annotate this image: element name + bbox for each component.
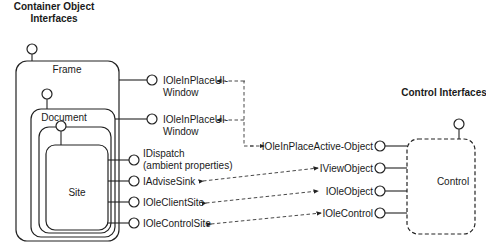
lollipop-icon [375, 141, 385, 151]
svg-text:IOleInPlaceActive-Object: IOleInPlaceActive-Object [262, 141, 373, 152]
svg-text:IViewObject: IViewObject [320, 163, 373, 174]
ole-object-interface: IOleObject [326, 186, 407, 197]
control-label: Control [437, 176, 469, 187]
inplace-active-object-interface: IOleInPlaceActive-Object [262, 141, 407, 152]
site-unknown-lollipop-icon [56, 121, 66, 131]
document-unknown-lollipop-icon [42, 89, 52, 99]
document-box: Document [31, 89, 115, 237]
svg-text:Window: Window [163, 87, 199, 98]
svg-text:IOleControlSite: IOleControlSite [143, 218, 211, 229]
svg-text:(ambient properties): (ambient properties) [143, 160, 232, 171]
advise-sink-interface: IAdviseSink [108, 176, 196, 187]
client-site-interface: IOleClientSite [108, 197, 205, 208]
container-header-line1: Container Object [14, 1, 95, 12]
view-object-interface: IViewObject [320, 163, 407, 174]
document-inner-box [39, 127, 111, 233]
dispatch-interface: IDispatch (ambient properties) [108, 148, 232, 171]
connector-controlsite-olecontrol [211, 213, 321, 224]
control-site-interface: IOleControlSite [108, 218, 211, 229]
svg-text:IOleObject: IOleObject [326, 186, 373, 197]
svg-text:IOleInPlaceUI-: IOleInPlaceUI- [163, 75, 228, 86]
control-unknown-lollipop-icon [454, 119, 464, 129]
svg-text:IOleClientSite: IOleClientSite [143, 197, 205, 208]
connector-clientsite-oleobject [206, 191, 318, 203]
control-box: Control [407, 119, 475, 234]
svg-text:Window: Window [163, 126, 199, 137]
ole-control-interface: IOleControl [322, 208, 407, 219]
site-box: Site [46, 121, 108, 230]
lollipop-icon [129, 176, 139, 186]
svg-text:IDispatch: IDispatch [143, 148, 185, 159]
connector-uiwindow-bracket [244, 81, 255, 146]
ole-interfaces-diagram: Container Object Interfaces Control Inte… [0, 0, 486, 249]
lollipop-icon [375, 163, 385, 173]
lollipop-icon [375, 186, 385, 196]
svg-text:IOleInPlaceUI-: IOleInPlaceUI- [163, 114, 228, 125]
lollipop-icon [129, 197, 139, 207]
lollipop-icon [129, 155, 139, 165]
dashed-connectors [203, 81, 321, 224]
lollipop-icon [375, 208, 385, 218]
container-header-line2: Interfaces [30, 13, 78, 24]
svg-text:IAdviseSink: IAdviseSink [143, 176, 196, 187]
frame-unknown-lollipop-icon [27, 44, 37, 54]
lollipop-icon [129, 218, 139, 228]
control-header: Control Interfaces [401, 87, 486, 98]
site-label: Site [68, 187, 86, 198]
svg-text:IOleControl: IOleControl [322, 208, 373, 219]
document-ui-window-interface: IOleInPlaceUI- Window [115, 114, 228, 137]
lollipop-icon [147, 114, 157, 124]
frame-ui-window-interface: IOleInPlaceUI- Window [119, 75, 228, 98]
lollipop-icon [147, 75, 157, 85]
frame-label: Frame [53, 64, 82, 75]
